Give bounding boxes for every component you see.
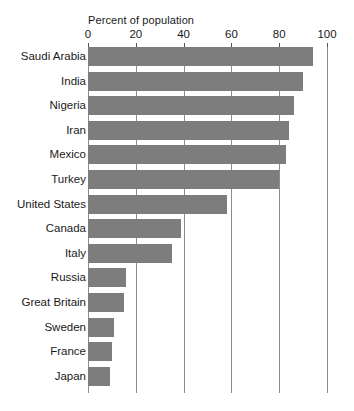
chart-row: Nigeria xyxy=(0,96,354,121)
chart-row: India xyxy=(0,72,354,97)
chart-row: Iran xyxy=(0,121,354,146)
category-label-france: France xyxy=(50,345,86,358)
bar-canada xyxy=(88,219,181,238)
category-label-nigeria: Nigeria xyxy=(50,99,86,112)
chart-row: Italy xyxy=(0,244,354,269)
bar-nigeria xyxy=(88,96,294,115)
category-label-mexico: Mexico xyxy=(50,148,86,161)
chart-row: Mexico xyxy=(0,145,354,170)
bar-sweden xyxy=(88,318,114,337)
bar-india xyxy=(88,72,303,91)
bar-france xyxy=(88,342,112,361)
chart-row: Canada xyxy=(0,219,354,244)
x-tick-label-100: 100 xyxy=(317,28,336,40)
category-label-russia: Russia xyxy=(51,271,86,284)
bar-iran xyxy=(88,121,289,140)
bar-russia xyxy=(88,268,126,287)
category-label-saudi-arabia: Saudi Arabia xyxy=(21,50,86,63)
category-label-sweden: Sweden xyxy=(44,321,86,334)
bar-united-states xyxy=(88,195,227,214)
x-tick-label-20: 20 xyxy=(129,28,142,40)
category-label-japan: Japan xyxy=(55,370,86,383)
chart-row: Saudi Arabia xyxy=(0,47,354,72)
category-label-india: India xyxy=(61,75,86,88)
category-label-italy: Italy xyxy=(65,247,86,260)
bar-chart: Percent of population 020406080100 Saudi… xyxy=(0,0,354,411)
chart-row: France xyxy=(0,342,354,367)
chart-row: Turkey xyxy=(0,170,354,195)
chart-row: United States xyxy=(0,195,354,220)
x-tick-label-80: 80 xyxy=(273,28,286,40)
category-label-turkey: Turkey xyxy=(51,173,86,186)
x-tick-label-60: 60 xyxy=(225,28,238,40)
chart-row: Russia xyxy=(0,268,354,293)
bar-mexico xyxy=(88,145,286,164)
chart-row: Great Britain xyxy=(0,293,354,318)
bar-great-britain xyxy=(88,293,124,312)
category-label-united-states: United States xyxy=(17,198,86,211)
bar-saudi-arabia xyxy=(88,47,313,66)
category-label-great-britain: Great Britain xyxy=(21,296,86,309)
category-label-canada: Canada xyxy=(46,222,86,235)
bar-japan xyxy=(88,367,110,386)
plot-area: Saudi ArabiaIndiaNigeriaIranMexicoTurkey… xyxy=(0,47,354,397)
chart-row: Sweden xyxy=(0,318,354,343)
category-label-iran: Iran xyxy=(66,124,86,137)
x-tick-label-40: 40 xyxy=(177,28,190,40)
bar-turkey xyxy=(88,170,279,189)
x-axis-tick-labels: 020406080100 xyxy=(0,28,354,42)
axis-title: Percent of population xyxy=(88,14,194,26)
bar-italy xyxy=(88,244,172,263)
chart-row: Japan xyxy=(0,367,354,392)
x-tick-label-0: 0 xyxy=(85,28,91,40)
